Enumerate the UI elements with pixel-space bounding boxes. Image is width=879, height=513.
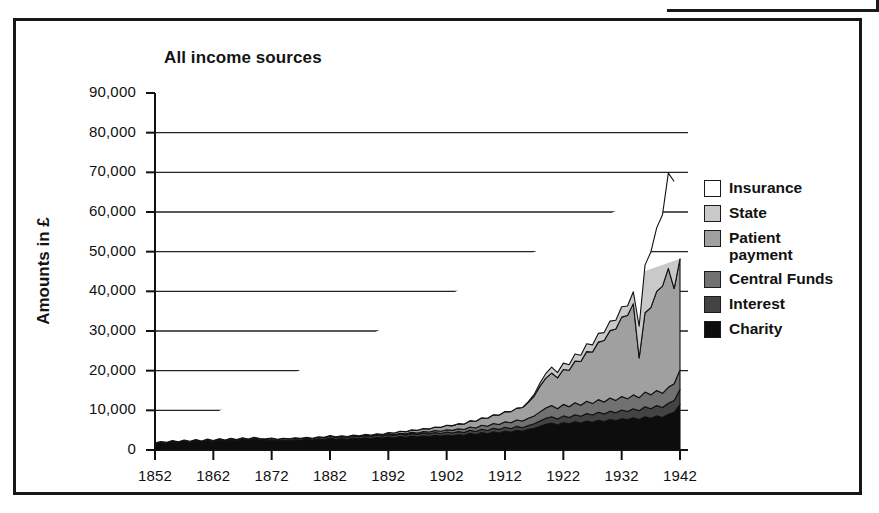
legend-item-charity[interactable]: Charity [704,320,872,338]
legend-swatch-state [704,205,721,222]
y-tick-label: 90,000 [50,83,136,100]
page-edge-artifact [667,0,879,12]
legend-label-interest: Interest [729,295,785,312]
legend-item-interest[interactable]: Interest [704,295,872,313]
legend-swatch-charity [704,321,721,338]
legend-swatch-interest [704,296,721,313]
legend-label-patient-payment: Patient payment [729,229,793,263]
legend-item-insurance[interactable]: Insurance [704,179,872,197]
x-tick-label: 1882 [300,467,360,484]
legend-item-central-funds[interactable]: Central Funds [704,270,872,288]
legend-item-state[interactable]: State [704,204,872,222]
x-tick-label: 1942 [650,467,710,484]
y-tick-label: 10,000 [50,400,136,417]
y-tick-label: 0 [50,440,136,457]
x-tick-label: 1912 [475,467,535,484]
legend-item-patient-payment[interactable]: Patient payment [704,229,872,263]
x-tick-label: 1892 [358,467,418,484]
x-tick-label: 1852 [125,467,185,484]
x-tick-label: 1862 [183,467,243,484]
y-tick-label: 70,000 [50,162,136,179]
legend-label-charity: Charity [729,320,782,337]
chart-frame: All income sources Amounts in £ Insuranc… [13,18,862,495]
x-tick-label: 1922 [533,467,593,484]
legend-swatch-insurance [704,180,721,197]
legend-swatch-central-funds [704,271,721,288]
y-tick-label: 80,000 [50,123,136,140]
y-tick-label: 60,000 [50,202,136,219]
legend-swatch-patient-payment [704,230,721,247]
y-tick-label: 30,000 [50,321,136,338]
y-tick-label: 20,000 [50,361,136,378]
legend-label-state: State [729,204,767,221]
x-tick-label: 1932 [592,467,652,484]
x-tick-label: 1872 [242,467,302,484]
legend-label-central-funds: Central Funds [729,270,833,287]
legend-label-insurance: Insurance [729,179,802,196]
chart-legend: Insurance State Patient payment Central … [704,179,872,345]
x-tick-label: 1902 [417,467,477,484]
y-tick-label: 40,000 [50,281,136,298]
y-tick-label: 50,000 [50,242,136,259]
